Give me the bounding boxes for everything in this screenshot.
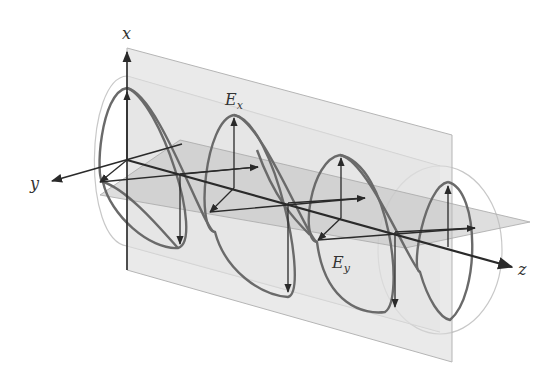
z-axis-label: z	[518, 262, 526, 278]
ex-label: Ex	[225, 92, 243, 111]
ey-label: Ey	[332, 255, 350, 274]
x-axis-label: x	[122, 26, 131, 42]
wave-diagram: x y z Ex Ey	[0, 0, 552, 383]
y-axis-label: y	[30, 176, 39, 192]
diagram-graphic	[0, 0, 552, 383]
